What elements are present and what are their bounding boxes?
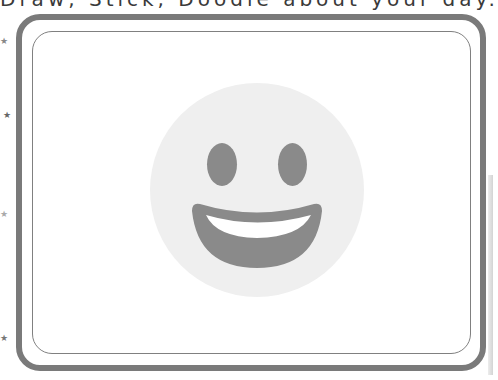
star-icon: ★ <box>0 210 8 219</box>
star-icon: ★ <box>0 334 8 343</box>
page-edge-shadow <box>488 175 493 375</box>
star-icon: ★ <box>0 37 8 46</box>
grinning-face-icon <box>150 83 364 297</box>
doodle-prompt-heading: Draw, Stick, Doodle about your day. <box>0 0 493 11</box>
right-eye <box>278 143 307 186</box>
star-icon: ★ <box>3 111 11 120</box>
left-eye <box>207 143 237 186</box>
